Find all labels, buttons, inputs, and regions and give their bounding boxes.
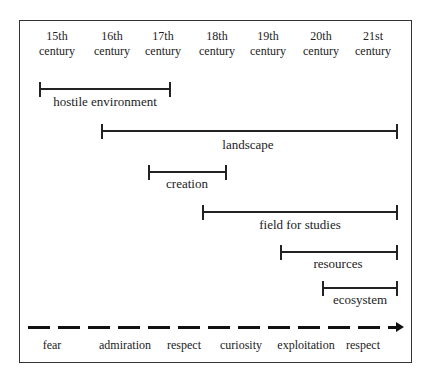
diagram-frame [19, 20, 412, 363]
period-bar [40, 88, 170, 90]
century-label: 15thcentury [27, 29, 87, 59]
period-bar [149, 171, 226, 173]
attitude-label: fear [43, 338, 62, 353]
attitude-label: admiration [99, 338, 151, 353]
period-label: field for studies [259, 217, 341, 233]
period-label: resources [313, 256, 362, 272]
century-label: 19thcentury [238, 29, 298, 59]
attitude-label: exploitation [277, 338, 334, 353]
period-label: landscape [222, 137, 273, 153]
period-label: ecosystem [333, 292, 387, 308]
timeline-dashed-arrow [28, 326, 398, 329]
period-bar [102, 130, 397, 132]
period-bar [281, 251, 397, 253]
period-label: creation [166, 176, 208, 192]
period-bar [203, 211, 397, 213]
arrowhead-icon [396, 322, 404, 332]
attitude-label: respect [346, 338, 380, 353]
century-label: 17thcentury [133, 29, 193, 59]
period-label: hostile environment [53, 94, 157, 110]
century-label: 20thcentury [291, 29, 351, 59]
attitude-label: curiosity [220, 338, 262, 353]
attitude-label: respect [167, 338, 201, 353]
period-bar [323, 287, 397, 289]
century-label: 21stcentury [343, 29, 403, 59]
